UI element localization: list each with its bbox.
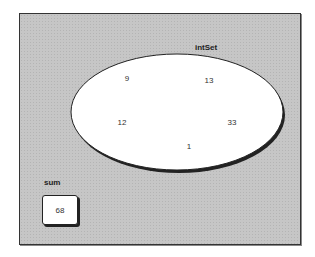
sum-label: sum	[44, 178, 60, 187]
set-element: 13	[205, 76, 214, 85]
sum-value: 68	[56, 206, 65, 215]
sum-value-box: 68	[42, 195, 78, 225]
set-label: intSet	[195, 43, 217, 52]
set-element: 1	[187, 142, 191, 151]
set-element: 9	[125, 74, 129, 83]
set-element: 12	[118, 118, 127, 127]
set-element: 33	[228, 118, 237, 127]
